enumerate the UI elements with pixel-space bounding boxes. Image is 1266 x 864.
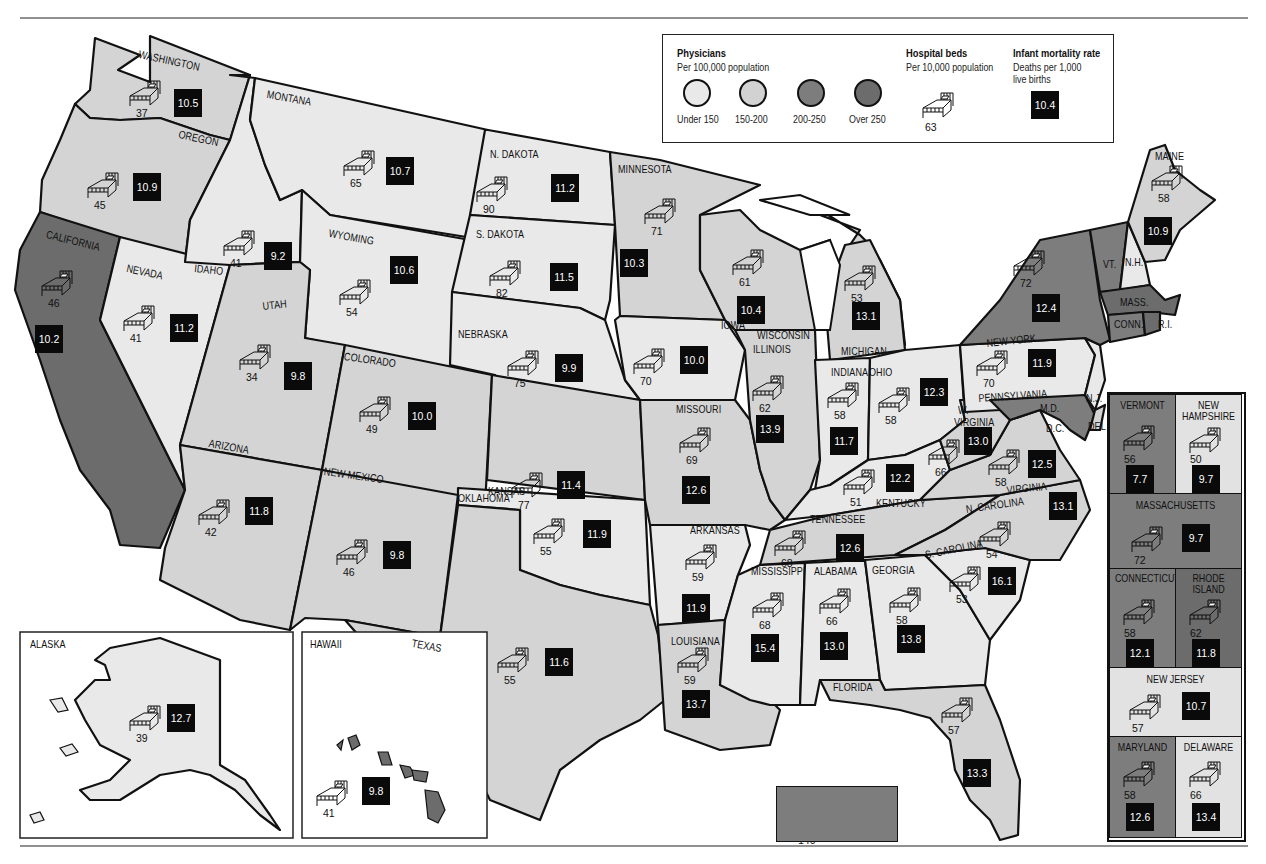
hospital-beds-value: 66 — [826, 615, 838, 627]
infant-mortality-value: 10.6 — [390, 256, 418, 284]
bed-icon — [315, 778, 349, 808]
ne-massachusetts: MASSACHUSETTS 72 9.7 — [1109, 493, 1242, 569]
infant-mortality-value: 10.3 — [620, 249, 648, 277]
label-mass: MASS. — [1120, 296, 1148, 308]
legend-label-200-250: 200-250 — [793, 113, 826, 125]
hospital-beds-value: 54 — [346, 306, 358, 318]
infant-mortality-value: 11.2 — [170, 314, 198, 342]
legend-infant-sub1: Deaths per 1,000 — [1013, 61, 1081, 73]
ne-md-beds: 58 — [1124, 789, 1136, 801]
bed-icon — [751, 590, 785, 620]
bed-icon — [818, 586, 852, 616]
ne-vermont: VERMONT 56 7.7 — [1109, 394, 1176, 494]
bed-icon — [510, 470, 544, 500]
bed-icon — [86, 170, 120, 200]
legend-physicians-sub: Per 100,000 population — [677, 61, 769, 73]
infant-mortality-value: 16.1 — [988, 567, 1016, 595]
hospital-beds-value: 65 — [350, 177, 362, 189]
bed-icon — [128, 703, 162, 733]
infant-mortality-value: 10.5 — [174, 89, 202, 117]
infant-mortality-value: 10.4 — [737, 296, 765, 324]
hospital-beds-value: 41 — [323, 807, 335, 819]
state-name: MINNESOTA — [618, 163, 672, 175]
state-name: MISSISSIPPI — [751, 565, 806, 577]
bed-icon — [222, 228, 256, 258]
label-nj: N.J. — [1086, 392, 1102, 404]
state-name: HAWAII — [310, 638, 342, 650]
hospital-beds-value: 42 — [205, 526, 217, 538]
infant-mortality-value: 10.0 — [680, 346, 708, 374]
legend-infant-sub2: live births — [1013, 73, 1051, 85]
ne-nh-beds: 50 — [1190, 453, 1202, 465]
state-name: INDIANA — [831, 366, 868, 378]
infant-mortality-value: 12.4 — [1032, 294, 1060, 322]
ne-del-beds: 66 — [1190, 789, 1202, 801]
infant-mortality-value: 12.5 — [1028, 450, 1056, 478]
infant-mortality-value: 11.9 — [1028, 349, 1056, 377]
infant-mortality-value: 13.0 — [964, 427, 992, 455]
bed-icon — [532, 516, 566, 546]
hospital-beds-value: 58 — [834, 409, 846, 421]
infant-mortality-value: 11.9 — [583, 520, 611, 548]
infant-mortality-value: 10.9 — [133, 173, 161, 201]
infant-mortality-value: 13.8 — [897, 625, 925, 653]
bed-icon — [1122, 423, 1156, 453]
infant-mortality-value: 9.8 — [284, 362, 312, 390]
label-del: DEL — [1088, 420, 1106, 432]
ne-new-jersey: NEW JERSEY 57 10.7 — [1109, 667, 1242, 737]
ne-md-infant: 12.6 — [1126, 803, 1154, 831]
infant-mortality-value: 10.0 — [408, 402, 436, 430]
bed-icon — [921, 90, 955, 120]
hospital-beds-value: 51 — [850, 496, 862, 508]
hospital-beds-value: 55 — [540, 545, 552, 557]
bed-icon — [358, 394, 392, 424]
hospital-beds-value: 82 — [496, 287, 508, 299]
infant-mortality-value: 13.1 — [1049, 492, 1077, 520]
ne-nj-infant: 10.7 — [1182, 692, 1210, 720]
bed-icon — [842, 467, 876, 497]
legend-label-150-200: 150-200 — [735, 113, 768, 125]
hospital-beds-value: 70 — [983, 377, 995, 389]
ne-del-name: DELAWARE — [1181, 742, 1236, 753]
legend-swatch-over-250 — [854, 79, 882, 107]
hospital-beds-value: 77 — [518, 499, 530, 511]
hospital-beds-value: 54 — [986, 548, 998, 560]
dc-box — [776, 786, 898, 842]
legend-swatch-200-250 — [797, 79, 825, 107]
ne-conn-infant: 12.1 — [1126, 639, 1154, 667]
infant-mortality-value: 9.8 — [383, 541, 411, 569]
state-name: OKLAHOMA — [458, 492, 510, 504]
hospital-beds-value: 61 — [739, 276, 751, 288]
bed-icon — [238, 342, 272, 372]
hospital-beds-value: 34 — [246, 371, 258, 383]
state-name: S. DAKOTA — [476, 228, 524, 240]
hospital-beds-value: 66 — [935, 466, 947, 478]
bed-icon — [1128, 692, 1162, 722]
hospital-beds-value: 41 — [130, 332, 142, 344]
legend-infant-example: 10.4 — [1031, 91, 1059, 119]
bed-icon — [978, 519, 1012, 549]
infant-mortality-value: 9.2 — [264, 242, 292, 270]
ne-maryland: MARYLAND 58 12.6 — [1109, 736, 1176, 838]
ne-ri-beds: 62 — [1190, 627, 1202, 639]
hospital-beds-value: 58 — [995, 476, 1007, 488]
state-name: GEORGIA — [872, 564, 915, 576]
ne-nh-infant: 9.7 — [1192, 465, 1220, 493]
bed-icon — [751, 373, 785, 403]
ne-rhode-island: RHODE ISLAND 62 11.8 — [1175, 568, 1242, 668]
label-w-virginia-v: VIRGINIA — [954, 416, 994, 428]
infant-mortality-value: 9.8 — [362, 777, 390, 805]
state-name: ALASKA — [30, 638, 66, 650]
ne-vermont-name: VERMONT — [1115, 400, 1170, 411]
infant-mortality-value: 12.6 — [682, 476, 710, 504]
infant-mortality-value: 12.7 — [167, 704, 195, 732]
hospital-beds-value: 62 — [759, 402, 771, 414]
bed-icon — [1012, 248, 1046, 278]
bed-icon — [1122, 597, 1156, 627]
state-name: N. DAKOTA — [490, 148, 539, 160]
hospital-beds-value: 57 — [948, 724, 960, 736]
bed-icon — [1188, 597, 1222, 627]
hospital-beds-value: 39 — [136, 732, 148, 744]
bed-icon — [122, 303, 156, 333]
bed-icon — [506, 348, 540, 378]
